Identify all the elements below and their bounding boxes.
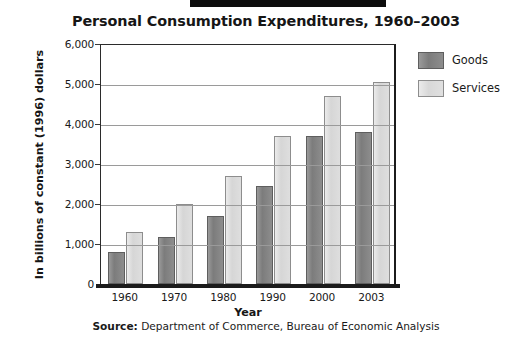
bar-services-1960[interactable]: [126, 232, 143, 284]
gridline: [101, 125, 394, 126]
source-note: Source: Department of Commerce, Bureau o…: [0, 320, 532, 332]
y-tick-label: 3,000: [34, 158, 94, 170]
y-tick-label: 0: [34, 278, 94, 290]
bar-goods-2003[interactable]: [355, 132, 372, 284]
gridline: [101, 165, 394, 166]
gridline: [101, 245, 394, 246]
chart-figure: Personal Consumption Expenditures, 1960–…: [0, 0, 532, 340]
chart-title: Personal Consumption Expenditures, 1960–…: [0, 13, 532, 29]
x-axis-title: Year: [100, 306, 396, 319]
legend-item-services[interactable]: Services: [418, 76, 500, 100]
legend-swatch-goods-icon: [418, 52, 444, 69]
bar-services-1970[interactable]: [176, 204, 193, 284]
bar-services-1980[interactable]: [225, 176, 242, 284]
bar-goods-1960[interactable]: [108, 252, 125, 284]
legend-label-goods: Goods: [452, 53, 488, 67]
y-tick-label: 4,000: [34, 118, 94, 130]
y-tick-label: 6,000: [34, 38, 94, 50]
y-tick-mark: [95, 124, 100, 125]
y-tick-mark: [95, 44, 100, 45]
y-tick-mark: [95, 244, 100, 245]
gridline: [101, 205, 394, 206]
y-tick-label: 1,000: [34, 238, 94, 250]
bar-services-1990[interactable]: [274, 136, 291, 284]
bar-goods-1990[interactable]: [256, 186, 273, 284]
x-tick-label: 2003: [344, 291, 398, 303]
legend-label-services: Services: [452, 81, 500, 95]
bar-goods-1980[interactable]: [207, 216, 224, 284]
y-tick-mark: [95, 164, 100, 165]
y-tick-mark: [95, 204, 100, 205]
legend-swatch-services-icon: [418, 80, 444, 97]
source-prefix: Source:: [92, 320, 137, 332]
x-axis-line: [96, 284, 400, 288]
y-tick-label: 5,000: [34, 78, 94, 90]
x-tick-label: 2000: [295, 291, 349, 303]
y-tick-mark: [95, 84, 100, 85]
x-tick-label: 1990: [246, 291, 300, 303]
source-text: Department of Commerce, Bureau of Econom…: [138, 320, 440, 332]
legend-item-goods[interactable]: Goods: [418, 48, 500, 72]
x-tick-label: 1980: [196, 291, 250, 303]
x-tick-label: 1970: [147, 291, 201, 303]
plot-area: [100, 44, 396, 284]
bar-services-2003[interactable]: [373, 82, 390, 284]
y-tick-label: 2,000: [34, 198, 94, 210]
bar-goods-2000[interactable]: [306, 136, 323, 284]
x-tick-label: 1960: [98, 291, 152, 303]
gridline: [101, 85, 394, 86]
legend: Goods Services: [418, 48, 500, 104]
top-black-rule: [190, 0, 386, 7]
